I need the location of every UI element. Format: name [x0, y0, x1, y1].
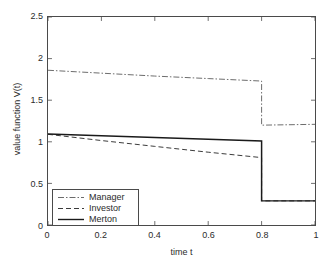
- x-axis-tick-labels: 0 0.2 0.4 0.6 0.8 1: [0, 231, 333, 245]
- chart-figure: 2.5 2 1.5 1 0.5 0 0 0.2 0.4 0.6 0.8 1 ti…: [0, 0, 333, 271]
- y-axis-label: value function V(t): [12, 14, 22, 224]
- legend-item-investor: Investor: [57, 203, 138, 214]
- legend-item-manager: Manager: [57, 192, 138, 203]
- legend-label: Manager: [89, 193, 125, 202]
- legend-swatch-dashed-icon: [57, 204, 85, 213]
- y-tick-label: 0.5: [30, 180, 43, 189]
- legend-swatch-dash-dot-icon: [57, 193, 85, 202]
- series-line-manager: [48, 70, 315, 125]
- x-axis-label: time t: [47, 247, 316, 257]
- data-series: [48, 70, 315, 201]
- legend: Manager Investor Merton: [52, 189, 139, 226]
- y-tick-label: 1: [38, 138, 43, 147]
- legend-label: Investor: [89, 204, 121, 213]
- x-tick-label: 0.6: [202, 231, 215, 240]
- y-tick-label: 2: [38, 54, 43, 63]
- x-tick-label: 0: [44, 231, 49, 240]
- legend-swatch-solid-icon: [57, 215, 85, 224]
- y-tick-label: 2.5: [30, 12, 43, 21]
- legend-item-merton: Merton: [57, 214, 138, 225]
- legend-label: Merton: [89, 215, 117, 224]
- x-tick-label: 0.4: [148, 231, 161, 240]
- x-tick-label: 1: [313, 231, 318, 240]
- x-tick-label: 0.2: [95, 231, 108, 240]
- y-tick-label: 1.5: [30, 96, 43, 105]
- x-tick-label: 0.8: [256, 231, 269, 240]
- y-tick-label: 0: [38, 222, 43, 231]
